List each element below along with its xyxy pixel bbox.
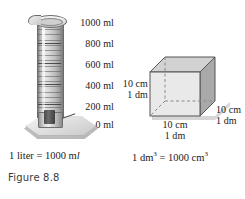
cube-right-dimension-cm: 10 cm xyxy=(216,104,241,115)
figure-8-8: 1000 ml 800 ml 600 ml 400 ml 200 ml 0 ml… xyxy=(0,0,245,199)
cylinder-caption-text: 1 liter = 1000 m xyxy=(9,150,77,161)
scale-label-600: 600 ml xyxy=(58,59,114,70)
cube-caption: 1 dm3 = 1000 cm3 xyxy=(132,150,208,163)
cylinder-pour-spout xyxy=(28,15,41,25)
cube-bottom-dimension-cm: 10 cm xyxy=(148,119,202,130)
scale-label-1000: 1000 ml xyxy=(58,17,114,28)
figure-number-label: Figure 8.8 xyxy=(8,172,60,183)
cube-caption-prefix: 1 dm xyxy=(132,152,153,163)
scale-label-0: 0 ml xyxy=(58,119,114,130)
cylinder-glass-highlight xyxy=(42,24,45,116)
cube-bottom-dimension-dm: 1 dm xyxy=(148,130,202,141)
cube-front-face xyxy=(150,72,200,116)
cylinder-caption: 1 liter = 1000 ml xyxy=(9,150,80,161)
cylinder-stopper xyxy=(44,110,55,124)
cube-caption-exponent-2: 3 xyxy=(204,150,208,158)
scale-label-800: 800 ml xyxy=(58,38,114,49)
cube-caption-middle: = 1000 cm xyxy=(157,152,205,163)
cube-illustration: 10 cm 1 dm 10 cm 1 dm 10 cm 1 dm xyxy=(118,30,245,145)
cube-left-dimension-cm: 10 cm xyxy=(96,78,148,89)
cube-left-dimension-dm: 1 dm xyxy=(96,89,148,100)
script-ell-glyph: l xyxy=(77,150,80,161)
graduated-cylinder-illustration: 1000 ml 800 ml 600 ml 400 ml 200 ml 0 ml xyxy=(0,0,120,145)
scale-label-200: 200 ml xyxy=(58,101,114,112)
cube-right-dimension-dm: 1 dm xyxy=(216,115,237,126)
